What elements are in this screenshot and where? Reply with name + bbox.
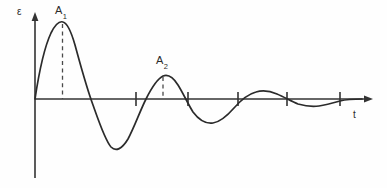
amplitude-label-a2: A2 — [156, 55, 168, 69]
amplitude-label-a1-subscript: 1 — [63, 12, 67, 21]
epsilon-axis-arrowhead — [32, 12, 39, 21]
epsilon-axis-label: ε — [17, 7, 21, 17]
plot-canvas — [0, 0, 387, 188]
time-axis-arrowhead — [364, 96, 373, 103]
time-axis-label: t — [353, 110, 356, 120]
amplitude-label-a1: A1 — [55, 5, 67, 19]
amplitude-label-a2-base: A — [156, 54, 163, 66]
amplitude-label-a2-subscript: 2 — [164, 62, 168, 71]
amplitude-dash-lines — [63, 24, 164, 99]
amplitude-label-a1-base: A — [55, 4, 62, 16]
damped-oscillation-figure: ε t A1 A2 — [0, 0, 387, 188]
time-axis — [35, 96, 373, 103]
damped-oscillation-curve — [35, 22, 362, 150]
